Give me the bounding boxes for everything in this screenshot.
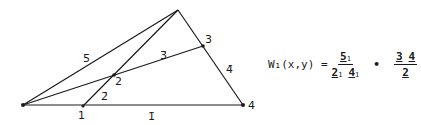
edge-label-5: 5̄ xyxy=(83,52,90,65)
vertex-label-1: 1 xyxy=(78,109,85,122)
num-main: 5 xyxy=(340,50,347,63)
edge-label-1: 1̄ xyxy=(148,110,155,123)
den3: 2 xyxy=(402,66,409,79)
vertex-label-2: 2 xyxy=(115,75,122,88)
vertex-left xyxy=(21,103,25,107)
vertex-label-4: 4 xyxy=(248,99,255,112)
den1-sub: 1 xyxy=(338,71,342,79)
edge-label-3: 3̄ xyxy=(160,49,167,62)
fraction-2-numerator: 34 xyxy=(394,50,417,65)
vertex-label-3: 3 xyxy=(205,33,212,46)
triangle-diagram: 1 2 3 4 1̄ 2̄ 3̄ 4̄ 5̄ xyxy=(0,0,270,125)
num2-b: 4 xyxy=(409,50,416,63)
fraction-1-denominator: 2141 xyxy=(332,65,360,79)
den2-sub: 1 xyxy=(355,71,359,79)
num-sub: 1 xyxy=(347,55,351,63)
edge-label-2: 2̄ xyxy=(101,90,108,103)
weight-formula: W₁(x,y) = 51 2141 • 34 2 xyxy=(268,50,421,79)
fraction-1-numerator: 51 xyxy=(338,50,353,65)
num2-a: 3 xyxy=(396,50,403,63)
formula-lhs: W₁(x,y) = xyxy=(268,58,328,71)
vertex-1 xyxy=(81,104,84,107)
multiply-operator: • xyxy=(373,58,380,71)
edge-4 xyxy=(178,10,243,105)
vertex-4 xyxy=(241,103,245,107)
fraction-2: 34 2 xyxy=(394,50,417,79)
fraction-2-denominator: 2 xyxy=(402,65,409,79)
fraction-1: 51 2141 xyxy=(332,50,360,79)
edge-label-4: 4̄ xyxy=(226,63,233,76)
